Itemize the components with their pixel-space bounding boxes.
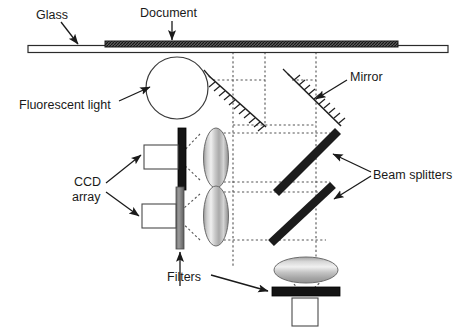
ccd-array-bottom [292,298,318,326]
leader-ccd-upper [106,155,141,183]
lens-bottom [274,257,338,283]
lens-upper [204,128,229,188]
lens-lower [204,186,229,246]
label-glass: Glass [36,8,68,22]
label-beam-splitters: Beam splitters [373,168,452,182]
filter-upper [178,128,186,190]
leader-glass [61,22,78,44]
label-ccd-array-line2: array [72,190,101,204]
leader-beam-splitter-upper [333,154,371,172]
scanner-optics-diagram: Glass Document Fluorescent light Mirror … [0,0,459,330]
ccd-array-lower [142,204,176,228]
label-ccd-array-line1: CCD [74,175,101,189]
leader-filter-bottom [211,275,268,291]
fluorescent-lamp [146,57,208,119]
document-sheet [105,41,398,47]
mirror-left [204,70,266,131]
filter-lower [176,187,184,249]
leader-fluorescent-light [119,87,150,101]
leader-ccd-lower [106,192,139,216]
leader-mirror [316,80,347,99]
mirror-right [283,69,345,126]
leader-beam-splitter-lower [334,176,371,199]
label-fluorescent-light: Fluorescent light [19,98,111,112]
label-document: Document [140,6,197,20]
ccd-array-upper [144,145,178,169]
filter-bottom [272,287,340,296]
label-mirror: Mirror [350,70,383,84]
label-filters: Filters [167,270,201,284]
